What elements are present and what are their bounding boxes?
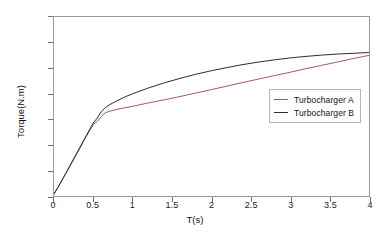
legend: Turbocharger ATurbocharger B [269,89,361,123]
x-axis-title: T(s) [0,214,390,225]
legend-line-swatch [274,112,288,113]
legend-item[interactable]: Turbocharger A [274,93,354,106]
x-tick-mark [330,197,331,202]
legend-label: Turbocharger A [294,95,354,105]
legend-line-swatch [274,99,288,100]
series-line [54,53,369,195]
x-tick-mark [93,197,94,202]
x-tick-mark [53,197,54,202]
legend-label: Turbocharger B [294,108,354,118]
x-tick-mark [172,197,173,202]
y-axis-title: Torque(N.m) [15,62,26,162]
x-tick-mark [212,197,213,202]
x-tick-mark [291,197,292,202]
x-tick-mark [132,197,133,202]
x-tick-mark [251,197,252,202]
x-tick-mark [370,197,371,202]
chart-figure: 0200400600800100012001400 Torque(N.m) 00… [0,0,390,243]
legend-item[interactable]: Turbocharger B [274,106,354,119]
series-line [54,55,369,194]
